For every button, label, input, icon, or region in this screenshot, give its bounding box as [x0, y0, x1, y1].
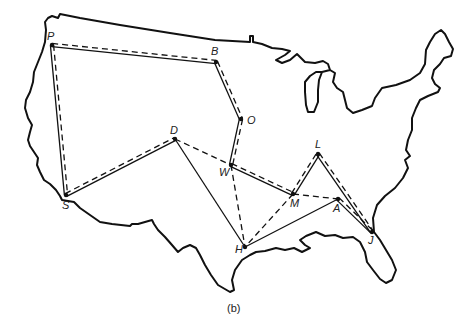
node-dot — [243, 245, 247, 249]
figure-caption: (b) — [227, 302, 240, 314]
node-label: S — [62, 199, 70, 211]
node-dot — [214, 60, 218, 64]
city-node-w: W — [219, 163, 233, 178]
node-label: D — [170, 124, 178, 136]
node-dot — [50, 43, 54, 47]
node-dot — [229, 163, 233, 167]
node-label: B — [211, 45, 218, 57]
node-label: J — [367, 234, 374, 246]
node-dot — [239, 117, 243, 121]
city-node-h: H — [235, 243, 247, 255]
edge-p-b — [52, 43, 216, 63]
edge-b-o-dashed — [217, 61, 242, 118]
edge-s-d — [65, 138, 175, 197]
edge-b-o — [215, 61, 243, 119]
edge-s-d-dashed — [65, 138, 174, 194]
node-label: O — [247, 114, 256, 126]
city-node-j: J — [367, 230, 374, 246]
edge-p-s-solid — [50, 45, 64, 195]
edge-d-h — [175, 139, 245, 247]
edge-l-j — [317, 153, 374, 233]
node-dot — [173, 137, 177, 141]
edge-a-j-dashed — [339, 198, 373, 231]
edge-m-a — [293, 194, 338, 199]
edge-s-d-solid — [67, 140, 176, 196]
edge-b-o-solid — [215, 63, 240, 120]
edge-m-l-solid — [294, 155, 319, 195]
node-label: W — [219, 166, 231, 178]
node-dot — [64, 193, 68, 197]
edge-l-j-dashed — [319, 153, 373, 231]
edge-p-s-dashed — [54, 45, 68, 195]
edge-p-b-solid — [52, 47, 216, 64]
node-dot — [336, 197, 340, 201]
node-dot — [291, 192, 295, 196]
us-network-map-figure: PBODWSLMAJH (b) — [0, 0, 476, 326]
node-label: M — [290, 197, 300, 209]
city-node-a: A — [332, 197, 340, 214]
node-label: L — [315, 138, 321, 150]
edge-w-h — [231, 165, 245, 247]
city-node-b: B — [211, 45, 218, 64]
city-node-p: P — [47, 30, 55, 47]
edge-w-m — [230, 164, 293, 196]
edge-a-j-solid — [337, 200, 371, 233]
edge-m-l-dashed — [292, 153, 317, 193]
node-label: H — [235, 243, 243, 255]
edge-m-h — [245, 194, 293, 247]
node-dot — [316, 152, 320, 156]
city-nodes: PBODWSLMAJH — [47, 30, 374, 255]
edge-o-w — [229, 119, 242, 166]
edge-p-b-dashed — [52, 43, 216, 60]
edge-p-s — [50, 45, 67, 195]
edge-w-m-dashed — [232, 164, 294, 193]
route-edges — [50, 43, 373, 247]
edge-w-m-solid — [230, 166, 292, 195]
city-node-d: D — [170, 124, 178, 141]
node-label: A — [332, 202, 340, 214]
edge-m-l — [292, 153, 320, 195]
node-label: P — [47, 30, 55, 42]
